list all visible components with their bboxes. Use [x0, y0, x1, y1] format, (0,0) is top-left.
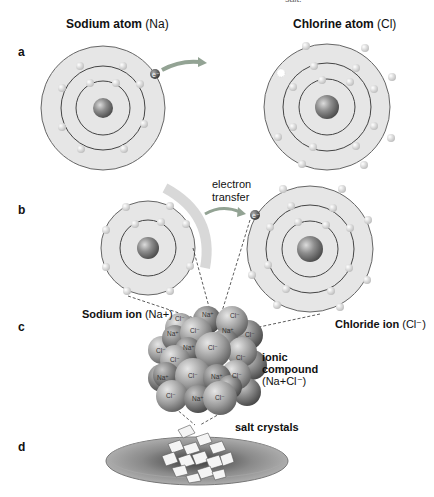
svg-text:Na⁺: Na⁺	[167, 330, 179, 337]
svg-text:Na⁺: Na⁺	[222, 327, 234, 334]
chloride-ion-label: Chloride ion (Cl⁻)	[335, 318, 426, 331]
sodium-ion-diagram	[101, 188, 207, 295]
svg-text:e⁻: e⁻	[252, 212, 260, 219]
electron-arrow-icon	[162, 62, 200, 70]
sodium-ion-label: Sodium ion (Na+)	[82, 308, 173, 320]
salt-crystals-label: salt crystals	[235, 421, 299, 433]
electron-transfer-line1: electron	[212, 178, 251, 191]
transfer-arrow-icon	[205, 208, 240, 214]
svg-text:Cl⁻: Cl⁻	[166, 392, 176, 399]
chloride-ion-diagram: e⁻	[205, 185, 373, 312]
sodium-ion-symbol: (Na+)	[145, 308, 173, 320]
ionic-compound-line2: compound	[262, 363, 318, 375]
svg-text:e⁻: e⁻	[152, 71, 160, 78]
svg-text:Cl⁻: Cl⁻	[232, 372, 242, 379]
svg-text:Cl⁻: Cl⁻	[188, 372, 198, 379]
electron-transfer-line2: transfer	[212, 191, 251, 204]
svg-text:Na⁺: Na⁺	[211, 373, 223, 380]
svg-text:Cl⁻: Cl⁻	[190, 327, 200, 334]
ionic-compound-line1: ionic	[262, 351, 318, 363]
svg-text:Cl⁻: Cl⁻	[215, 394, 225, 401]
ionic-lattice-cluster: Cl⁻ Na⁺ Cl⁻ Na⁺ Cl⁻ Na⁺ Cl⁻ Cl⁻ Na⁺ Cl⁻ …	[148, 306, 267, 415]
svg-text:Cl⁻: Cl⁻	[156, 347, 166, 354]
electron-transfer-label: electron transfer	[212, 178, 251, 204]
svg-text:Na⁺: Na⁺	[202, 311, 214, 318]
svg-text:Cl⁻: Cl⁻	[208, 344, 218, 351]
svg-text:Cl⁻: Cl⁻	[230, 312, 240, 319]
salt-crystals-plate	[106, 425, 288, 485]
svg-text:Cl⁻: Cl⁻	[245, 331, 255, 338]
svg-text:Na⁺: Na⁺	[157, 374, 169, 381]
chloride-ion-symbol: (Cl⁻)	[402, 318, 426, 330]
svg-text:Na⁺: Na⁺	[183, 344, 195, 351]
ionic-compound-label: ionic compound (Na+Cl⁻)	[262, 351, 318, 387]
svg-text:Na⁺: Na⁺	[192, 395, 204, 402]
electron-vacancy-icon	[277, 69, 285, 77]
svg-text:Cl⁻: Cl⁻	[236, 354, 246, 361]
chloride-ion-label-bold: Chloride ion	[335, 318, 399, 330]
sodium-ion-label-bold: Sodium ion	[82, 308, 142, 320]
svg-text:Cl⁻: Cl⁻	[175, 315, 185, 322]
svg-text:Cl⁻: Cl⁻	[170, 356, 180, 363]
diagram-canvas: e⁻	[0, 0, 434, 497]
chlorine-atom-diagram	[264, 42, 396, 170]
ionic-compound-formula: (Na+Cl⁻)	[262, 375, 318, 387]
sodium-atom-diagram: e⁻	[41, 46, 207, 170]
